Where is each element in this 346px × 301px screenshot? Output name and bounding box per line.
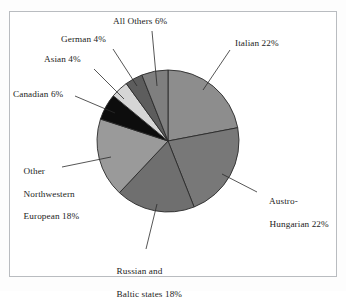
leader-line-austro-hungarian <box>222 174 257 192</box>
other-nw-european-line-1: Other <box>24 166 45 176</box>
russian-baltic-line-1: Russian and <box>117 266 163 276</box>
leader-line-russian-baltic <box>146 204 157 249</box>
other-nw-european-line-3: European 18% <box>24 211 80 221</box>
leader-line-asian <box>94 69 124 99</box>
pie-slices <box>97 70 239 212</box>
slice-label-all-others: All Others 6% <box>113 16 167 27</box>
slice-label-other-northwestern-european: Other Northwestern European 18% <box>14 155 79 233</box>
russian-baltic-line-2: Baltic states 18% <box>117 289 183 299</box>
other-nw-european-line-2: Northwestern <box>24 189 75 199</box>
slice-label-italian: Italian 22% <box>235 38 279 49</box>
slice-label-asian: Asian 4% <box>44 54 81 65</box>
slice-label-german: German 4% <box>61 34 106 45</box>
slice-label-canadian: Canadian 6% <box>13 89 63 100</box>
slice-label-russian-baltic: Russian and Baltic states 18% <box>107 255 182 301</box>
leader-line-german <box>113 49 137 86</box>
austro-hungarian-line-2: Hungarian 22% <box>270 219 329 229</box>
slice-label-austro-hungarian: Austro- Hungarian 22% <box>260 185 329 241</box>
austro-hungarian-line-1: Austro- <box>269 196 298 206</box>
leader-line-italian <box>203 50 230 90</box>
